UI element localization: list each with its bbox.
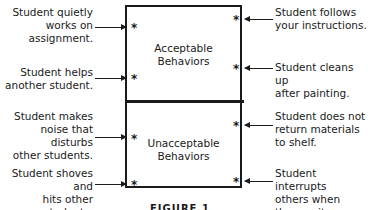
note-quietly-works: Student quietly works on assignment. [12, 6, 93, 45]
note-cleans-up: Student cleans up after painting. [275, 61, 368, 100]
note-follows-instructions: Student follows your instructions. [275, 6, 367, 32]
note-does-not-return: Student does not return materials to she… [275, 110, 365, 149]
arrow-left-icon [245, 125, 273, 126]
asterisk-marker-icon: * [131, 179, 137, 191]
asterisk-marker-icon: * [131, 133, 137, 145]
acceptable-behaviors-label: Acceptable Behaviors [125, 42, 242, 68]
note-shoves-hits: Student shoves and hits other students. [0, 167, 93, 210]
figure-caption: FIGURE 1 [150, 203, 210, 210]
note-interrupts: Student interrupts others when they reci… [275, 167, 368, 210]
asterisk-marker-icon: * [233, 176, 239, 188]
arrow-left-icon [245, 68, 273, 69]
unacceptable-behaviors-label: Unacceptable Behaviors [125, 137, 242, 163]
arrow-right-icon [95, 27, 126, 28]
note-helps-student: Student helps another student. [5, 66, 93, 92]
arrow-right-icon [95, 78, 126, 79]
note-makes-noise: Student makes noise that disturbs other … [0, 110, 93, 162]
asterisk-marker-icon: * [233, 14, 239, 26]
asterisk-marker-icon: * [233, 63, 239, 75]
arrow-right-icon [95, 184, 126, 185]
arrow-left-icon [245, 19, 273, 20]
arrow-right-icon [95, 137, 126, 138]
asterisk-marker-icon: * [131, 73, 137, 85]
arrow-left-icon [245, 181, 273, 182]
asterisk-marker-icon: * [233, 120, 239, 132]
category-divider [125, 100, 244, 103]
asterisk-marker-icon: * [131, 22, 137, 34]
